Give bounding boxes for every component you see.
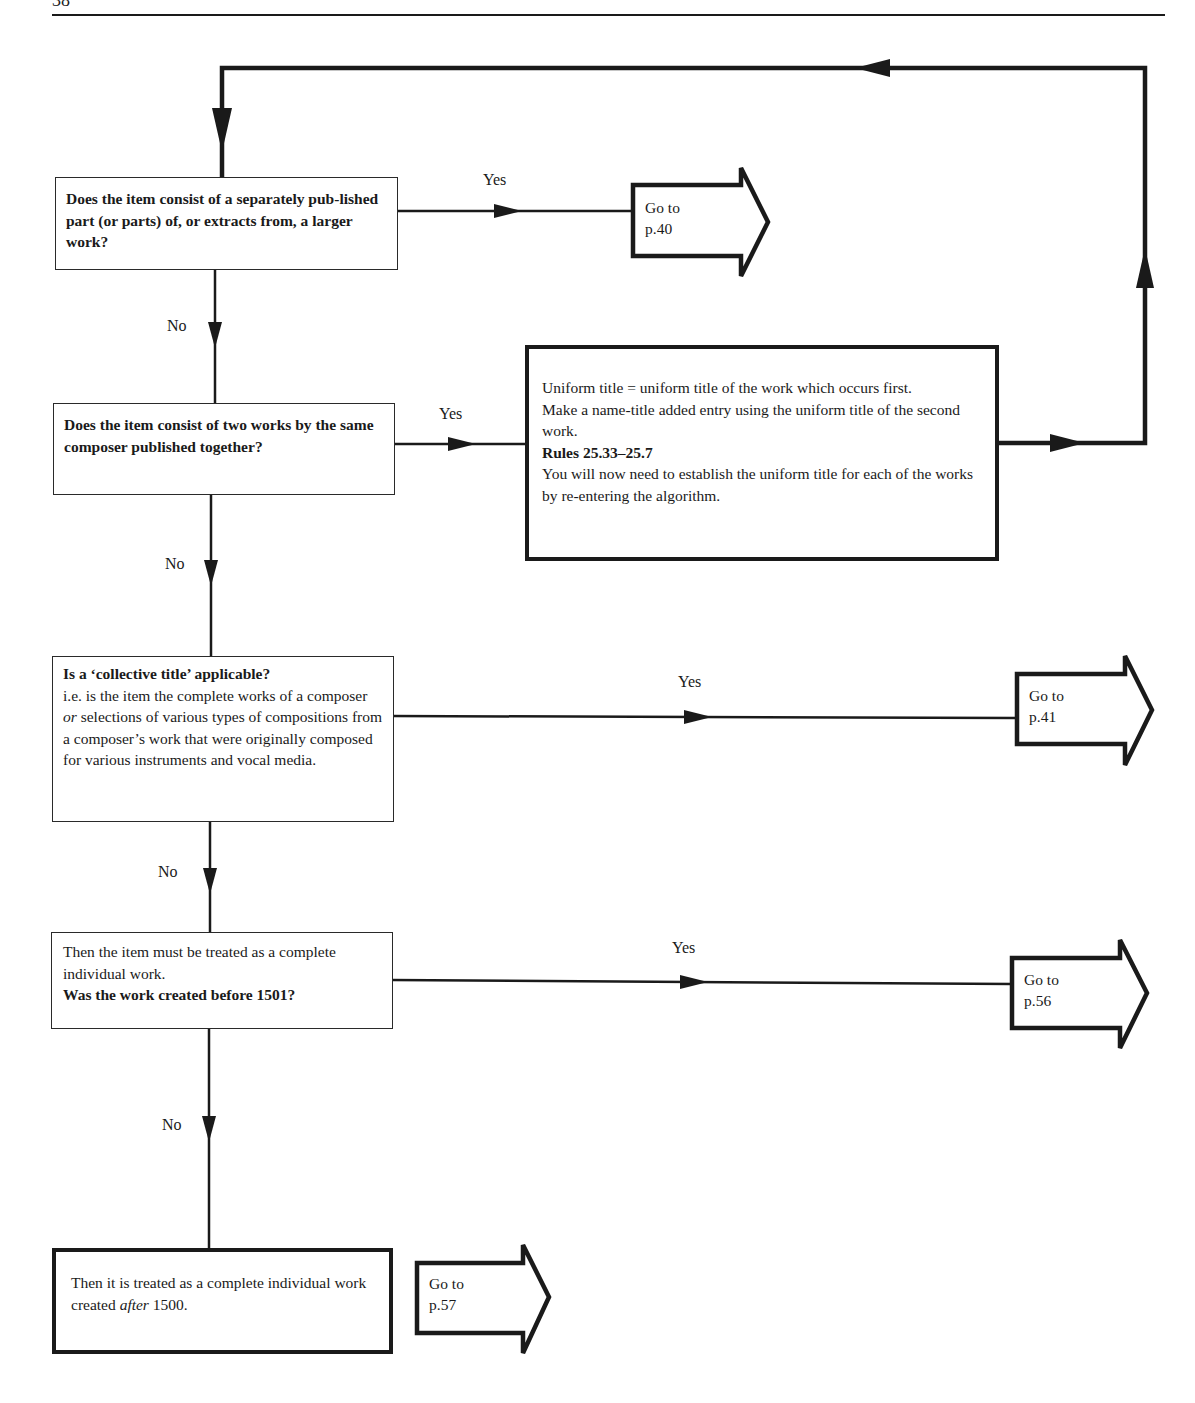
- decision-body-part1: i.e. is the item the complete works of a…: [63, 687, 367, 704]
- decision-box-two-works-same-composer: Does the item consist of two works by th…: [53, 403, 395, 495]
- no-arrow-4-icon: [202, 1116, 216, 1142]
- yes-arrow-4-icon: [680, 975, 708, 989]
- terminal-box-after-1500: Then it is treated as a complete individ…: [52, 1248, 393, 1354]
- goto-p40[interactable]: Go to p.40: [645, 197, 680, 239]
- rules-reference: Rules 25.33–25.7: [542, 442, 983, 464]
- decision-intro: Then the item must be treated as a compl…: [63, 941, 381, 984]
- no-label-1: No: [167, 317, 187, 335]
- goto-line1: Go to: [429, 1273, 464, 1294]
- goto-page: p.41: [1029, 706, 1064, 727]
- loop-arrow-down-icon: [212, 108, 232, 152]
- action-line-reenter: You will now need to establish the unifo…: [542, 463, 983, 506]
- goto-page: p.56: [1024, 990, 1059, 1011]
- goto-line1: Go to: [645, 197, 680, 218]
- action-box-uniform-title-first-work: Uniform title = uniform title of the wor…: [525, 345, 999, 561]
- action-line-added-entry: Make a name-title added entry using the …: [542, 399, 983, 442]
- goto-page: p.57: [429, 1294, 464, 1315]
- no-label-4: No: [162, 1116, 182, 1134]
- decision-title: Is a ‘collective title’ applicable?: [63, 663, 383, 685]
- goto-page: p.40: [645, 218, 680, 239]
- no-arrow-3-icon: [203, 868, 217, 894]
- terminal-text-part2: 1500.: [149, 1296, 188, 1313]
- yes-label-3: Yes: [678, 673, 701, 691]
- yes-arrow-1-icon: [494, 204, 522, 218]
- decision-text: Does the item consist of two works by th…: [64, 416, 374, 455]
- loop-arrow-right-icon: [1050, 434, 1085, 452]
- yes-arrow-2-icon: [448, 437, 476, 451]
- no-label-3: No: [158, 863, 178, 881]
- decision-body-part2: selections of various types of compositi…: [63, 708, 382, 768]
- loop-arrow-up-icon: [1136, 248, 1154, 288]
- decision-box-created-before-1501: Then the item must be treated as a compl…: [51, 932, 393, 1029]
- yes-label-4: Yes: [672, 939, 695, 957]
- goto-p41[interactable]: Go to p.41: [1029, 685, 1064, 727]
- yes-label-2: Yes: [439, 405, 462, 423]
- goto-p57[interactable]: Go to p.57: [429, 1273, 464, 1315]
- decision-box-collective-title: Is a ‘collective title’ applicable? i.e.…: [52, 656, 394, 822]
- loop-arrow-left-icon: [855, 59, 890, 77]
- goto-p56[interactable]: Go to p.56: [1024, 969, 1059, 1011]
- no-arrow-1-icon: [208, 322, 222, 348]
- action-line-uniform-title: Uniform title = uniform title of the wor…: [542, 377, 983, 399]
- goto-line1: Go to: [1029, 685, 1064, 706]
- yes-label-1: Yes: [483, 171, 506, 189]
- decision-text: Does the item consist of a separately pu…: [66, 190, 378, 250]
- terminal-text-part1: Then it is treated as a complete individ…: [71, 1274, 366, 1313]
- decision-question: Was the work created before 1501?: [63, 984, 381, 1006]
- no-label-2: No: [165, 555, 185, 573]
- decision-body-or: or: [63, 708, 77, 725]
- no-arrow-2-icon: [204, 560, 218, 586]
- terminal-text-after: after: [120, 1296, 149, 1313]
- decision-box-separately-published-part: Does the item consist of a separately pu…: [55, 177, 398, 270]
- goto-line1: Go to: [1024, 969, 1059, 990]
- yes-arrow-3-icon: [684, 710, 712, 724]
